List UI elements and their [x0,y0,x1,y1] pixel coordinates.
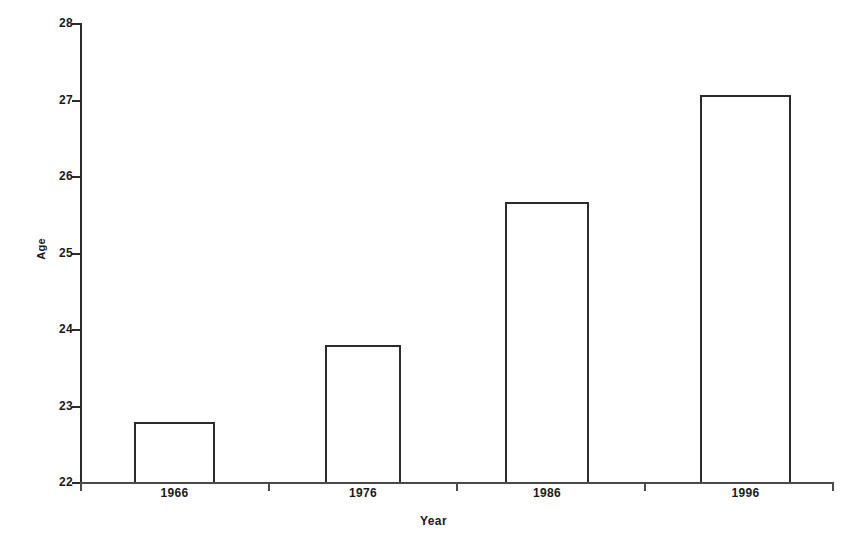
x-axis-label-1996: 1996 [700,486,791,500]
bar-chart-figure: ) 22 23 24 25 26 27 28 [0,0,867,544]
y-tick-label: 22 [59,475,73,489]
y-tick-label: 26 [59,169,73,183]
y-tick-mark [72,482,80,484]
x-axis-label-1976: 1976 [325,486,401,500]
y-tick-label: 24 [59,322,73,336]
y-tick-mark [72,23,80,25]
y-tick-label: 28 [59,16,73,30]
x-tick-mark [644,482,646,491]
bar-1996 [700,95,791,482]
x-axis-title: Year [0,514,867,528]
bar-1986 [505,202,589,482]
y-tick-mark [72,100,80,102]
bar-1976 [325,345,401,482]
y-tick-label: 25 [59,246,73,260]
x-axis-label-1966: 1966 [134,486,215,500]
y-tick-mark [72,329,80,331]
plot-area: 22 23 24 25 26 27 28 [80,23,832,482]
x-tick-mark [832,482,834,491]
x-axis-label-1986: 1986 [505,486,589,500]
x-tick-mark [456,482,458,491]
y-tick-label: 23 [59,399,73,413]
x-tick-mark [80,482,82,491]
x-tick-mark [268,482,270,491]
y-axis-title: Age [35,238,47,260]
y-tick-mark [72,406,80,408]
bar-1966 [134,422,215,482]
y-tick-mark [72,253,80,255]
y-axis-line [80,23,82,482]
y-tick-mark [72,176,80,178]
y-tick-label: 27 [59,93,73,107]
